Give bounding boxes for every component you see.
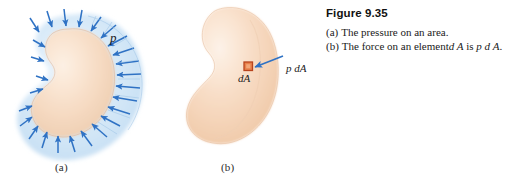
figure-panel-a [0, 0, 180, 191]
caption-line-b-math-1: d A [449, 40, 464, 52]
force-area-region [186, 8, 278, 144]
pressure-arrow [36, 76, 48, 80]
caption-line-b-period: . [499, 40, 502, 52]
caption-line-b-lead: (b) [326, 40, 339, 52]
caption-line-a-lead: (a) [326, 26, 338, 38]
panel-a-sublabel: (a) [55, 161, 68, 173]
force-label: p dA [286, 62, 306, 74]
pressure-arrow [117, 74, 141, 75]
caption-line-a-text: The pressure on an area. [341, 26, 448, 38]
area-element-square [244, 62, 253, 71]
figure-panel-b [180, 0, 320, 191]
pressure-arrow [30, 18, 39, 32]
panel-b-sublabel: (b) [221, 161, 234, 173]
panel-b-drawing [180, 0, 320, 191]
caption-line-a: (a)The pressure on an area. [326, 25, 526, 39]
caption-line-b-text-1: The force on an element [342, 40, 449, 52]
pressure-label-p: p [110, 30, 117, 46]
caption-line-b: (b)The force on an elementd A is p d A. [326, 39, 526, 53]
area-element-label: dA [238, 72, 250, 84]
panel-a-drawing [0, 0, 180, 191]
caption-line-b-math-2: p d A [476, 40, 499, 52]
caption-line-b-text-2: is [466, 40, 473, 52]
figure-caption: Figure 9.35 (a)The pressure on an area. … [326, 7, 526, 53]
figure-caption-title: Figure 9.35 [326, 7, 526, 19]
